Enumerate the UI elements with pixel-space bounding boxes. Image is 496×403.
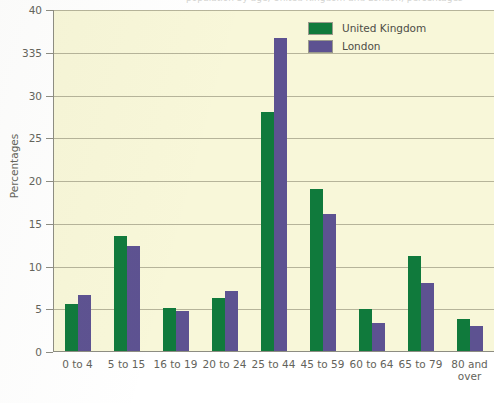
y-tick-label: 15 — [2, 219, 42, 229]
bar-london — [78, 295, 91, 351]
y-tick-label: 335 — [2, 48, 42, 58]
bar-united-kingdom — [408, 256, 421, 351]
gridline — [54, 10, 494, 11]
chart-legend: United KingdomLondon — [308, 19, 426, 55]
bar-united-kingdom — [114, 236, 127, 351]
y-tick-label: 5 — [2, 304, 42, 314]
y-tick-mark — [46, 267, 53, 268]
y-tick-mark — [46, 10, 53, 11]
y-tick-mark — [46, 181, 53, 182]
legend-swatch-icon — [308, 40, 333, 53]
x-tick-label: 80 andover — [437, 358, 496, 382]
legend-item: London — [308, 37, 426, 55]
plot-area — [53, 10, 494, 352]
y-tick-mark — [46, 309, 53, 310]
bar-london — [274, 38, 287, 351]
bar-united-kingdom — [457, 319, 470, 351]
legend-label: United Kingdom — [342, 22, 426, 34]
bar-chart-figure: population by age, United Kingdom and Lo… — [0, 0, 496, 403]
bar-united-kingdom — [65, 304, 78, 351]
y-axis-title: Percentages — [8, 116, 20, 216]
bar-united-kingdom — [261, 112, 274, 351]
y-tick-mark — [46, 138, 53, 139]
y-tick-label: 10 — [2, 262, 42, 272]
bar-united-kingdom — [310, 189, 323, 351]
bar-london — [372, 323, 385, 351]
cropped-caption-sliver: population by age, United Kingdom and Lo… — [186, 0, 496, 5]
legend-swatch-icon — [308, 22, 333, 35]
bar-united-kingdom — [163, 308, 176, 351]
y-tick-label: 30 — [2, 91, 42, 101]
bar-london — [176, 311, 189, 351]
legend-item: United Kingdom — [308, 19, 426, 37]
y-tick-mark — [46, 224, 53, 225]
y-tick-mark — [46, 352, 53, 353]
bar-london — [323, 214, 336, 351]
bar-london — [470, 326, 483, 351]
bar-united-kingdom — [359, 309, 372, 351]
y-tick-mark — [46, 96, 53, 97]
y-tick-label: 0 — [2, 347, 42, 357]
bar-london — [225, 291, 238, 351]
legend-label: London — [342, 40, 381, 52]
y-tick-mark — [46, 53, 53, 54]
y-tick-label: 40 — [2, 5, 42, 15]
bar-london — [127, 246, 140, 351]
bar-united-kingdom — [212, 298, 225, 351]
bar-london — [421, 283, 434, 351]
